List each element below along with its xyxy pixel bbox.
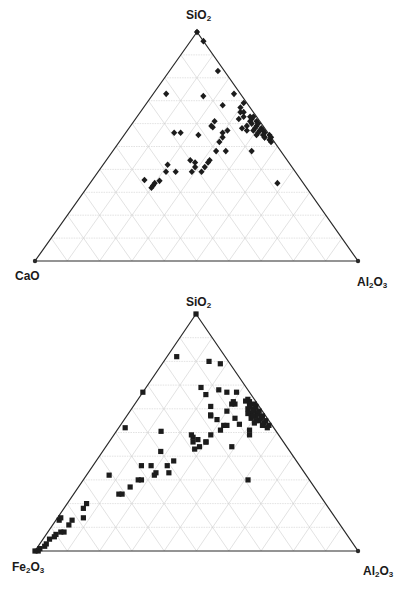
data-point <box>232 416 237 421</box>
data-point <box>245 411 250 416</box>
data-point <box>250 409 255 414</box>
data-point <box>81 515 86 520</box>
data-point <box>192 446 197 451</box>
data-point <box>218 361 223 366</box>
data-point <box>252 401 257 406</box>
data-point <box>216 387 221 392</box>
data-point <box>221 423 226 428</box>
data-point <box>139 463 144 468</box>
data-point <box>245 397 250 402</box>
data-point <box>214 417 219 422</box>
apex-label-top: SiO2 <box>186 296 211 310</box>
data-point <box>42 544 47 549</box>
data-point <box>174 354 179 359</box>
data-point <box>81 506 86 511</box>
data-point <box>32 548 37 553</box>
data-point <box>158 449 163 454</box>
data-point <box>47 537 52 542</box>
data-point <box>139 477 144 482</box>
data-point <box>197 444 202 449</box>
data-point <box>229 444 234 449</box>
data-point <box>253 418 258 423</box>
data-point <box>195 437 200 442</box>
data-point <box>234 390 239 395</box>
apex-label-left: Fe2O3 <box>12 561 44 575</box>
data-point <box>52 534 57 539</box>
data-point <box>224 390 229 395</box>
data-point <box>69 518 74 523</box>
data-point <box>190 435 195 440</box>
data-point <box>247 432 252 437</box>
data-point <box>140 390 145 395</box>
data-point <box>166 470 171 475</box>
data-point <box>208 432 213 437</box>
data-point <box>116 492 121 497</box>
data-point <box>193 311 198 316</box>
data-point <box>245 477 250 482</box>
data-point <box>250 413 255 418</box>
data-point <box>158 429 163 434</box>
apex-label-right: Al2O3 <box>363 565 393 579</box>
data-point <box>237 422 242 427</box>
data-point <box>218 428 223 433</box>
data-point <box>149 463 154 468</box>
data-point <box>171 458 176 463</box>
data-point <box>84 501 89 506</box>
data-point <box>203 392 208 397</box>
data-point <box>66 522 71 527</box>
data-point <box>128 484 133 489</box>
data-point <box>260 423 265 428</box>
data-point <box>123 425 128 430</box>
data-point <box>208 404 213 409</box>
data-point <box>265 425 270 430</box>
data-point <box>203 439 208 444</box>
data-point <box>61 529 66 534</box>
data-point <box>206 359 211 364</box>
apex-dot <box>356 549 360 553</box>
data-point <box>224 409 229 414</box>
data-point <box>208 413 213 418</box>
data-point <box>231 399 236 404</box>
data-point <box>152 473 157 478</box>
data-point <box>198 385 203 390</box>
ternary-chart-fe2o3: SiO2 Fe2O3 Al2O3 <box>0 0 406 589</box>
data-point <box>58 515 63 520</box>
data-point <box>165 463 170 468</box>
grid-lines <box>51 338 342 551</box>
data-point <box>107 473 112 478</box>
figure-caption-cropped <box>22 583 292 589</box>
data-point <box>247 404 252 409</box>
data-point <box>190 439 195 444</box>
data-point <box>247 428 252 433</box>
